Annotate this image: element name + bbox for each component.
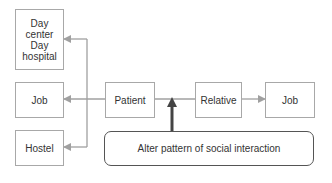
node-label: Hostel [25,143,53,154]
node-label-line: Day [31,40,49,51]
node-label: Job [31,95,47,106]
node-label: Relative [200,95,236,106]
patient-node: Patient [105,82,155,118]
node-label-line: Day [31,18,49,29]
node-label-line: hospital [22,51,56,62]
node-label: Job [282,95,298,106]
relative-node: Relative [195,82,242,118]
job-right-node: Job [265,82,315,118]
node-label-line: center [26,29,54,40]
intervention-node: Alter pattern of social interaction [104,131,314,166]
node-label: Patient [114,95,145,106]
job-left-node: Job [15,82,64,118]
day-center-day-hospital-node: Day center Day hospital [15,9,64,70]
node-label: Alter pattern of social interaction [138,143,281,154]
hostel-node: Hostel [15,130,64,166]
